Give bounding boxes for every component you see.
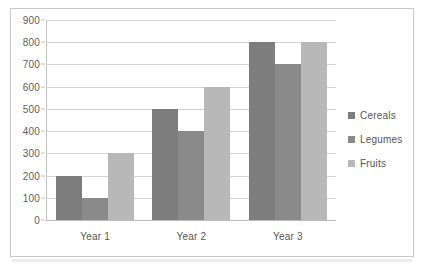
legend-item-label: Legumes [360,134,403,145]
y-axis-tick-label: 400 [23,126,40,137]
bar-cereals-year-2[interactable] [152,109,178,220]
chart-legend: CerealsLegumesFruits [348,110,403,182]
legend-item-legumes[interactable]: Legumes [348,134,403,145]
y-axis-tick-label: 200 [23,170,40,181]
y-axis-tick-label: 300 [23,148,40,159]
scan-edge-artifact [12,259,412,262]
legend-item-label: Cereals [360,110,396,121]
y-tick-mark-200 [41,175,45,176]
x-axis-category-label: Year 1 [47,231,143,242]
y-axis-tick-label: 100 [23,192,40,203]
legend-swatch-icon [348,112,355,119]
x-axis-category-label: Year 3 [240,231,336,242]
bar-legumes-year-1[interactable] [82,198,108,220]
y-tick-mark-300 [41,153,45,154]
bar-fruits-year-1[interactable] [108,153,134,220]
bars-layer: Year 1Year 2Year 3 [47,20,336,220]
y-tick-mark-0 [41,220,45,221]
bar-legumes-year-3[interactable] [275,64,301,220]
gridline-0 [46,220,336,221]
y-axis-tick-label: 600 [23,81,40,92]
y-tick-mark-800 [41,42,45,43]
legend-swatch-icon [348,160,355,167]
y-axis-tick-label: 500 [23,103,40,114]
y-tick-mark-100 [41,197,45,198]
legend-swatch-icon [348,136,355,143]
bar-fruits-year-3[interactable] [301,42,327,220]
legend-item-cereals[interactable]: Cereals [348,110,403,121]
plot-area: 9008007006005004003002001000 Year 1Year … [46,20,336,220]
bar-cereals-year-1[interactable] [56,176,82,220]
y-tick-mark-700 [41,64,45,65]
bar-group-year-2: Year 2 [143,20,239,220]
y-tick-mark-400 [41,131,45,132]
y-tick-mark-500 [41,108,45,109]
y-axis-tick-label: 800 [23,37,40,48]
y-tick-mark-900 [41,20,45,21]
y-axis-tick-label: 700 [23,59,40,70]
bar-legumes-year-2[interactable] [178,131,204,220]
bar-fruits-year-2[interactable] [204,87,230,220]
bar-group-year-1: Year 1 [47,20,143,220]
y-axis-tick-label: 0 [34,215,40,226]
x-axis-category-label: Year 2 [143,231,239,242]
bar-cereals-year-3[interactable] [249,42,275,220]
y-tick-mark-600 [41,86,45,87]
legend-item-fruits[interactable]: Fruits [348,158,403,169]
bar-group-year-3: Year 3 [240,20,336,220]
legend-item-label: Fruits [360,158,386,169]
y-axis-tick-label: 900 [23,15,40,26]
